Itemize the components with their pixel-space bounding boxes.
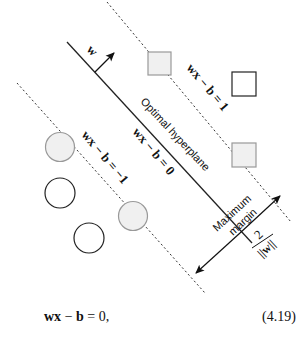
normal-vector-label: w [84,42,102,60]
equation-rest: = 0, [84,309,109,324]
margin-arrow-line-lower [196,233,240,273]
equation-w: wx [44,309,61,324]
equation-minus: − [61,309,76,324]
square-support-vector [148,52,171,75]
normal-vector-arrow [95,53,114,72]
square-point [232,72,256,96]
circle-support-vector [119,202,148,231]
circle-point [74,223,104,253]
equation-b: b [76,309,84,324]
circle-point [45,178,75,208]
upper-margin-line [107,2,291,222]
equation: wx − b = 0, [44,309,109,325]
equation-number: (4.19) [262,309,296,325]
square-support-vector [232,143,256,167]
circle-support-vector [46,133,75,162]
svm-diagram: w wx − b = 1 wx − b = 0 wx − b = −1 Opti… [0,0,306,300]
lower-margin-line [17,83,205,293]
upper-margin-equation: wx − b = 1 [184,60,232,114]
lower-margin-equation: wx − b = −1 [79,127,132,186]
